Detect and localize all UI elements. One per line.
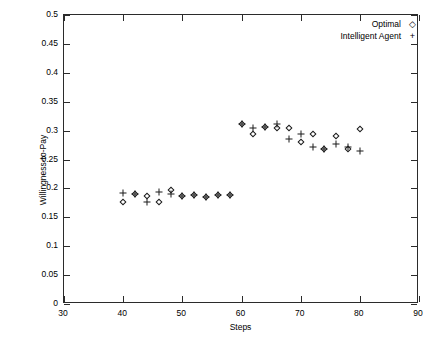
data-point-optimal: [120, 198, 127, 205]
x-axis-tick: [419, 15, 420, 21]
legend-item-optimal: Optimal ◇: [341, 18, 418, 30]
y-axis-tick: [411, 275, 417, 276]
y-axis-tick-label: 0.15: [41, 212, 58, 221]
y-axis-tick-label: 0.4: [46, 68, 58, 77]
data-point-intelligent-agent: [274, 120, 281, 127]
y-axis-tick: [411, 102, 417, 103]
x-axis-tick: [64, 15, 65, 21]
plus-marker-icon: +: [408, 32, 417, 41]
data-point-optimal: [285, 125, 292, 132]
data-point-intelligent-agent: [309, 144, 316, 151]
y-axis-tick: [411, 15, 417, 16]
y-axis-tick: [411, 188, 417, 189]
data-point-intelligent-agent: [262, 124, 269, 131]
y-axis-tick: [64, 217, 70, 218]
diamond-marker-icon: ◇: [408, 20, 417, 29]
data-point-intelligent-agent: [226, 192, 233, 199]
y-axis-tick: [64, 131, 70, 132]
data-point-intelligent-agent: [333, 141, 340, 148]
data-point-intelligent-agent: [321, 146, 328, 153]
y-axis-tick: [411, 73, 417, 74]
data-point-optimal: [333, 132, 340, 139]
y-axis-tick-label: 0.5: [46, 10, 58, 19]
data-point-intelligent-agent: [250, 125, 257, 132]
y-axis-tick: [64, 275, 70, 276]
data-point-intelligent-agent: [238, 120, 245, 127]
y-axis-tick: [64, 44, 70, 45]
chart-legend: Optimal ◇ Intelligent Agent +: [341, 18, 418, 42]
x-axis-tick: [64, 296, 65, 302]
data-point-intelligent-agent: [120, 190, 127, 197]
y-axis-tick: [411, 131, 417, 132]
data-point-optimal: [155, 198, 162, 205]
x-axis-tick: [182, 296, 183, 302]
y-axis-tick-label: 0.45: [41, 39, 58, 48]
x-axis-tick-label: 50: [151, 309, 211, 318]
y-axis-tick: [411, 44, 417, 45]
data-point-optimal: [356, 126, 363, 133]
scatter-chart-figure: Willingness-to-Pay Steps Optimal ◇ Intel…: [0, 0, 445, 339]
data-point-intelligent-agent: [191, 192, 198, 199]
data-point-intelligent-agent: [297, 131, 304, 138]
legend-label-intelligent-agent: Intelligent Agent: [341, 30, 402, 42]
x-axis-tick: [242, 296, 243, 302]
y-axis-tick-label: 0: [53, 299, 58, 308]
x-axis-tick: [242, 15, 243, 21]
legend-label-optimal: Optimal: [372, 18, 401, 30]
x-axis-tick-label: 90: [388, 309, 445, 318]
x-axis-tick: [182, 15, 183, 21]
legend-item-intelligent-agent: Intelligent Agent +: [341, 30, 418, 42]
data-point-intelligent-agent: [203, 194, 210, 201]
x-axis-tick: [301, 296, 302, 302]
plot-area: [63, 14, 418, 303]
y-axis-tick: [411, 217, 417, 218]
y-axis-tick-label: 0.3: [46, 126, 58, 135]
y-axis-tick-label: 0.05: [41, 270, 58, 279]
data-point-intelligent-agent: [179, 193, 186, 200]
x-axis-tick: [360, 296, 361, 302]
y-axis-tick-label: 0.2: [46, 183, 58, 192]
data-point-intelligent-agent: [143, 199, 150, 206]
y-axis-tick: [411, 160, 417, 161]
y-axis-tick-label: 0.35: [41, 97, 58, 106]
y-axis-tick: [411, 246, 417, 247]
data-point-intelligent-agent: [285, 135, 292, 142]
data-point-optimal: [309, 131, 316, 138]
y-axis-tick: [411, 304, 417, 305]
x-axis-tick: [301, 15, 302, 21]
x-axis-tick-label: 30: [33, 309, 93, 318]
x-axis-tick: [123, 296, 124, 302]
x-axis-tick-label: 40: [92, 309, 152, 318]
y-axis-title: Willingness-to-Pay: [38, 134, 48, 204]
x-axis-tick-label: 70: [270, 309, 330, 318]
x-axis-tick: [419, 296, 420, 302]
y-axis-tick-label: 0.25: [41, 155, 58, 164]
data-point-intelligent-agent: [155, 188, 162, 195]
y-axis-tick: [64, 73, 70, 74]
x-axis-tick-label: 80: [329, 309, 389, 318]
data-point-intelligent-agent: [214, 191, 221, 198]
y-axis-tick: [64, 304, 70, 305]
data-point-optimal: [297, 139, 304, 146]
y-axis-tick: [64, 102, 70, 103]
data-point-intelligent-agent: [356, 148, 363, 155]
y-axis-tick-label: 0.1: [46, 241, 58, 250]
x-axis-tick-label: 60: [211, 309, 271, 318]
y-axis-tick: [64, 188, 70, 189]
data-point-intelligent-agent: [167, 191, 174, 198]
x-axis-tick: [123, 15, 124, 21]
y-axis-tick: [64, 246, 70, 247]
y-axis-tick: [64, 160, 70, 161]
x-axis-title: Steps: [63, 322, 418, 332]
data-point-intelligent-agent: [132, 191, 139, 198]
data-point-intelligent-agent: [345, 143, 352, 150]
